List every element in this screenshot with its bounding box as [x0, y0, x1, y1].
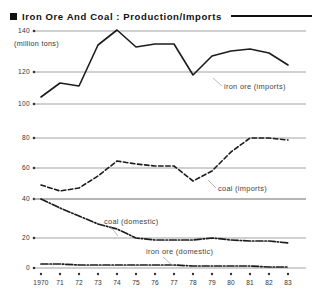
tick-dot-120 [33, 71, 36, 74]
xtick-label-77: 77 [170, 279, 178, 286]
ytick-label-0: 0 [26, 264, 30, 271]
tick-dot-100 [33, 103, 36, 106]
series-label-coal-imports: coal (imports) [218, 184, 267, 193]
panel-upper: 140 120 100 (million tons) iron ore (imp… [14, 27, 306, 107]
xtick-dot [59, 273, 61, 275]
ytick-label-60: 60 [22, 164, 30, 171]
xtick-dot [230, 273, 232, 275]
xtick-label-1970: 1970 [33, 279, 49, 286]
series-label-iron-ore-imports: iron ore (imports) [224, 82, 286, 91]
xtick-dot [154, 273, 156, 275]
tick-dot-20 [33, 237, 36, 240]
ytick-label-100: 100 [18, 100, 30, 107]
xtick-label-79: 79 [208, 279, 216, 286]
xtick-label-72: 72 [75, 279, 83, 286]
xtick-label-80: 80 [227, 279, 235, 286]
xtick-dot [97, 273, 99, 275]
ytick-label-40: 40 [22, 195, 30, 202]
tick-dot-140 [33, 30, 36, 33]
xtick-dot [40, 273, 42, 275]
xtick-label-82: 82 [265, 279, 273, 286]
xtick-dot [268, 273, 270, 275]
xtick-label-78: 78 [189, 279, 197, 286]
xtick-dot [192, 273, 194, 275]
tick-dot-60 [33, 167, 36, 170]
panel-middle: 80 60 40 coal (imports) [22, 134, 306, 202]
ytick-label-140: 140 [18, 27, 30, 34]
chart-canvas: 140 120 100 (million tons) iron ore (imp… [0, 0, 320, 297]
xtick-label-81: 81 [246, 279, 254, 286]
ytick-label-80: 80 [22, 134, 30, 141]
xtick-dot [135, 273, 137, 275]
series-line-iron-ore-domestic [41, 264, 288, 267]
series-label-coal-domestic: coal (domestic) [104, 217, 159, 226]
xtick-label-76: 76 [151, 279, 159, 286]
tick-dot-80 [33, 137, 36, 140]
unit-label: (million tons) [14, 39, 59, 48]
tick-dot-0 [33, 267, 36, 270]
leader-coal-imports [208, 180, 216, 188]
xtick-label-74: 74 [113, 279, 121, 286]
xtick-label-73: 73 [94, 279, 102, 286]
xtick-dot [78, 273, 80, 275]
x-axis: 1970 71 72 73 74 75 76 77 78 79 80 81 82… [33, 273, 292, 286]
xtick-label-83: 83 [284, 279, 292, 286]
chart-figure: Iron Ore And Coal : Production/Imports 1… [0, 0, 320, 297]
ytick-label-120: 120 [18, 68, 30, 75]
xtick-label-75: 75 [132, 279, 140, 286]
xtick-dot [249, 273, 251, 275]
xtick-dot [211, 273, 213, 275]
xtick-dot [287, 273, 289, 275]
xtick-label-71: 71 [56, 279, 64, 286]
xtick-dot [173, 273, 175, 275]
panel-lower: 20 0 coal (domestic) iron ore (domestic) [22, 199, 306, 271]
xtick-dot [116, 273, 118, 275]
ytick-label-20: 20 [22, 234, 30, 241]
leader-iron-ore-imports [213, 78, 222, 86]
series-line-coal-domestic [41, 199, 288, 243]
series-label-iron-ore-domestic: iron ore (domestic) [146, 247, 213, 256]
